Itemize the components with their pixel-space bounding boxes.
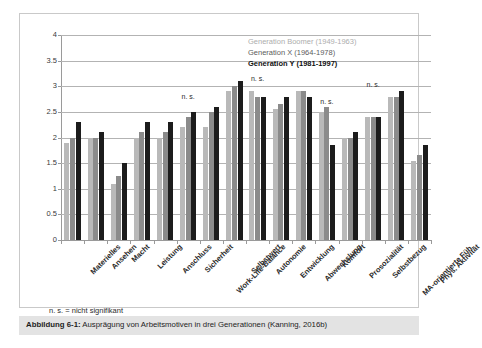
bar bbox=[186, 117, 191, 240]
y-tick-label: 4 bbox=[27, 31, 57, 39]
bar bbox=[88, 138, 93, 241]
y-axis-labels: 00.511.522.533.54 bbox=[20, 35, 57, 240]
y-tick-label: 1.5 bbox=[27, 159, 57, 167]
bar bbox=[64, 143, 69, 240]
bar-group bbox=[64, 35, 80, 240]
bar bbox=[238, 81, 243, 240]
y-tick-mark bbox=[58, 112, 61, 113]
y-tick-mark bbox=[58, 35, 61, 36]
bar bbox=[365, 117, 370, 240]
footnote-significance: n. s. = nicht signifikant bbox=[49, 306, 123, 315]
bar bbox=[296, 91, 301, 240]
bar bbox=[116, 176, 121, 240]
bar bbox=[76, 122, 81, 240]
bar bbox=[232, 86, 237, 240]
bar bbox=[353, 132, 358, 240]
bar-group bbox=[111, 35, 127, 240]
bar bbox=[394, 97, 399, 241]
bar bbox=[111, 184, 116, 240]
bar-group bbox=[134, 35, 150, 240]
y-tick-mark bbox=[58, 214, 61, 215]
y-tick-label: 3 bbox=[27, 83, 57, 91]
legend: Generation Boomer (1949-1963) Generation… bbox=[248, 36, 424, 69]
bar bbox=[70, 138, 75, 241]
bar bbox=[342, 138, 347, 241]
bar bbox=[249, 91, 254, 240]
bar bbox=[145, 122, 150, 240]
bar bbox=[273, 109, 278, 240]
legend-item-x: Generation X (1964-1978) bbox=[248, 47, 424, 58]
bar bbox=[261, 97, 266, 241]
bar bbox=[99, 132, 104, 240]
bar bbox=[324, 107, 329, 240]
bar bbox=[417, 155, 422, 240]
caption-number: Abbildung 6-1: bbox=[26, 320, 81, 329]
legend-item-boomer: Generation Boomer (1949-1963) bbox=[248, 36, 424, 47]
y-tick-label: 0.5 bbox=[27, 211, 57, 219]
y-tick-mark bbox=[58, 240, 61, 241]
bar bbox=[139, 132, 144, 240]
bar bbox=[180, 127, 185, 240]
bar bbox=[278, 104, 283, 240]
bar bbox=[411, 161, 416, 240]
bar bbox=[371, 117, 376, 240]
figure-caption: Abbildung 6-1: Ausprägung von Arbeitsmot… bbox=[19, 316, 419, 335]
x-axis-labels: MateriellesAnsehenMachtLeistungAnschluss… bbox=[61, 243, 431, 305]
chart-panel: 00.511.522.533.54 n. s.n. s.n. s.n. s. M… bbox=[19, 13, 419, 308]
bar bbox=[376, 117, 381, 240]
bar-group bbox=[226, 35, 242, 240]
y-tick-mark bbox=[58, 163, 61, 164]
bar-group bbox=[88, 35, 104, 240]
bar-group bbox=[180, 35, 196, 240]
bar bbox=[191, 112, 196, 240]
legend-item-y: Generation Y (1981-1997) bbox=[248, 58, 424, 69]
bar bbox=[284, 97, 289, 241]
bar bbox=[255, 97, 260, 241]
bar bbox=[157, 138, 162, 241]
annotation-not-significant: n. s. bbox=[251, 75, 264, 82]
x-tick-label: Leistung bbox=[156, 243, 183, 270]
bar bbox=[348, 138, 353, 241]
caption-text: Ausprägung von Arbeitsmotiven in drei Ge… bbox=[81, 320, 328, 329]
annotation-not-significant: n. s. bbox=[367, 81, 380, 88]
y-tick-label: 2 bbox=[27, 134, 57, 142]
x-tick-mark bbox=[431, 240, 432, 244]
bar bbox=[163, 132, 168, 240]
y-tick-mark bbox=[58, 61, 61, 62]
bar bbox=[168, 122, 173, 240]
bar bbox=[399, 91, 404, 240]
bar bbox=[330, 145, 335, 240]
y-tick-label: 2.5 bbox=[27, 108, 57, 116]
bar bbox=[122, 163, 127, 240]
y-tick-label: 0 bbox=[27, 236, 57, 244]
y-tick-mark bbox=[58, 86, 61, 87]
bar bbox=[307, 97, 312, 241]
bar bbox=[301, 91, 306, 240]
y-tick-mark bbox=[58, 138, 61, 139]
bar bbox=[423, 145, 428, 240]
bar bbox=[388, 97, 393, 241]
bar-group bbox=[157, 35, 173, 240]
bar bbox=[214, 107, 219, 240]
bar bbox=[93, 138, 98, 241]
annotation-not-significant: n. s. bbox=[320, 98, 333, 105]
y-tick-label: 1 bbox=[27, 185, 57, 193]
bar bbox=[319, 112, 324, 240]
bar bbox=[134, 138, 139, 241]
y-tick-label: 3.5 bbox=[27, 57, 57, 65]
annotation-not-significant: n. s. bbox=[182, 93, 195, 100]
y-tick-mark bbox=[58, 189, 61, 190]
bar bbox=[203, 127, 208, 240]
bar bbox=[226, 91, 231, 240]
bar bbox=[209, 112, 214, 240]
bar-group bbox=[203, 35, 219, 240]
